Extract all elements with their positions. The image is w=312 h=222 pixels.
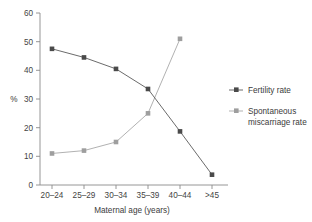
y-tick-label-30: 30 [24,95,34,104]
y-tick-label-60: 60 [24,9,34,18]
x-tick-label-5: >45 [205,191,219,200]
legend-label-fertility-rate: Fertility rate [248,86,291,95]
chart-legend: Fertility rate Spontaneous miscarriage r… [229,86,307,127]
data-point-marker [50,151,55,156]
data-point-marker [146,111,151,116]
x-tick-label-0: 20–24 [41,191,64,200]
data-point-marker [114,67,119,72]
legend-item-spontaneous-miscarriage-rate[interactable]: Spontaneous miscarriage rate [229,107,307,127]
series-line [52,49,212,175]
y-tick-label-50: 50 [24,38,34,47]
data-point-marker [178,129,183,134]
fertility-miscarriage-line-chart: 60 50 40 30 20 10 0 % 20–24 25–29 30–34 … [0,0,312,222]
data-point-marker [210,172,215,177]
data-point-marker [146,87,151,92]
chart-plot-area: 60 50 40 30 20 10 0 % 20–24 25–29 30–34 … [0,0,312,222]
y-tick-label-20: 20 [24,124,34,133]
y-axis-title: % [10,95,17,104]
data-point-marker [114,140,119,145]
series-spontaneous-miscarriage-rate [50,37,183,156]
x-tick-label-4: 40–44 [169,191,192,200]
legend-item-fertility-rate[interactable]: Fertility rate [229,86,291,95]
series-line [52,39,180,154]
y-tick-label-10: 10 [24,152,34,161]
y-tick-label-0: 0 [28,181,33,190]
x-tick-label-1: 25–29 [73,191,96,200]
legend-marker-miscarriage [234,108,239,113]
x-tick-label-2: 30–34 [105,191,128,200]
legend-label-miscarriage-line1: Spontaneous [248,107,296,116]
legend-label-miscarriage-line2: miscarriage rate [248,118,307,127]
data-point-marker [82,55,87,60]
x-tick-label-3: 35–39 [137,191,160,200]
x-axis-title: Maternal age (years) [94,206,170,215]
data-point-marker [178,37,183,42]
legend-marker-fertility [234,87,239,92]
data-point-marker [50,47,55,52]
data-point-marker [82,148,87,153]
y-tick-label-40: 40 [24,66,34,75]
series-fertility-rate [50,47,215,177]
